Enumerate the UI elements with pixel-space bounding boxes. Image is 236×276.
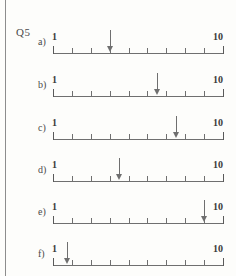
- number-line-start-label: 1: [52, 31, 57, 42]
- number-line-endpoint-tick: [223, 216, 224, 224]
- arrow-shaft: [176, 116, 177, 132]
- number-line-tick: [166, 91, 167, 97]
- number-line-start-label: 1: [52, 117, 57, 128]
- number-line-tick: [91, 218, 92, 224]
- number-line-tick: [147, 176, 148, 182]
- arrow-shaft: [67, 242, 68, 258]
- number-line-tick: [72, 134, 73, 140]
- row-letter-label: a): [38, 36, 46, 47]
- number-line-row: e)110: [0, 188, 236, 232]
- number-line-row: c)110: [0, 104, 236, 148]
- number-line-start-label: 1: [52, 159, 57, 170]
- number-line-tick: [72, 91, 73, 97]
- row-letter-label: c): [38, 122, 46, 133]
- number-line-arrow-marker: [172, 116, 181, 138]
- number-line-tick: [147, 260, 148, 266]
- row-letter-label: b): [38, 79, 46, 90]
- row-letter-label: d): [38, 164, 46, 175]
- number-line-arrow-marker: [200, 200, 209, 222]
- number-line-tick: [110, 260, 111, 266]
- number-line-end-label: 10: [213, 201, 223, 212]
- number-line-arrow-marker: [153, 73, 162, 95]
- arrow-head-icon: [154, 89, 160, 95]
- number-line-tick: [204, 260, 205, 266]
- number-line-tick: [204, 134, 205, 140]
- number-line-tick: [185, 260, 186, 266]
- number-line-tick: [166, 48, 167, 54]
- arrow-shaft: [204, 200, 205, 216]
- row-letter-label: e): [38, 206, 46, 217]
- number-line-endpoint-tick: [53, 174, 54, 182]
- number-line-axis: [53, 181, 223, 182]
- number-line-tick: [147, 48, 148, 54]
- number-line-tick: [185, 176, 186, 182]
- number-line-tick: [166, 218, 167, 224]
- number-line-tick: [91, 260, 92, 266]
- number-line-tick: [129, 218, 130, 224]
- number-line-endpoint-tick: [53, 46, 54, 54]
- number-line-tick: [110, 91, 111, 97]
- arrow-head-icon: [201, 216, 207, 222]
- number-line-tick: [147, 218, 148, 224]
- number-line-axis: [53, 223, 223, 224]
- number-line-tick: [185, 134, 186, 140]
- number-line-tick: [72, 176, 73, 182]
- number-line-endpoint-tick: [223, 174, 224, 182]
- number-line-row: f)110: [0, 230, 236, 274]
- number-line-tick: [129, 48, 130, 54]
- number-line-arrow-marker: [63, 242, 72, 264]
- arrow-shaft: [157, 73, 158, 89]
- number-line-row: a)110: [0, 18, 236, 62]
- number-line-tick: [129, 91, 130, 97]
- number-line-tick: [91, 91, 92, 97]
- number-line-endpoint-tick: [223, 258, 224, 266]
- number-line-axis: [53, 265, 223, 266]
- number-line-end-label: 10: [213, 243, 223, 254]
- number-line-tick: [91, 48, 92, 54]
- arrow-shaft: [119, 158, 120, 174]
- number-line-tick: [91, 176, 92, 182]
- number-line-endpoint-tick: [223, 89, 224, 97]
- number-line-tick: [110, 134, 111, 140]
- number-line-endpoint-tick: [53, 89, 54, 97]
- arrow-head-icon: [107, 46, 113, 52]
- number-line-endpoint-tick: [53, 216, 54, 224]
- number-line-tick: [110, 176, 111, 182]
- number-line-tick: [204, 48, 205, 54]
- number-line-tick: [110, 218, 111, 224]
- number-line-tick: [129, 134, 130, 140]
- number-line-arrow-marker: [115, 158, 124, 180]
- number-line-start-label: 1: [52, 201, 57, 212]
- arrow-head-icon: [64, 258, 70, 264]
- number-line-tick: [166, 176, 167, 182]
- number-line-tick: [185, 91, 186, 97]
- number-line-end-label: 10: [213, 31, 223, 42]
- number-line-axis: [53, 53, 223, 54]
- worksheet-page: Q5 a)110b)110c)110d)110e)110f)110: [0, 0, 236, 276]
- number-line-tick: [147, 134, 148, 140]
- number-line-tick: [204, 91, 205, 97]
- number-line-tick: [129, 260, 130, 266]
- number-line-start-label: 1: [52, 74, 57, 85]
- arrow-shaft: [110, 30, 111, 46]
- number-line-row: d)110: [0, 146, 236, 190]
- number-line-tick: [129, 176, 130, 182]
- number-line-axis: [53, 96, 223, 97]
- arrow-head-icon: [116, 174, 122, 180]
- number-line-tick: [204, 176, 205, 182]
- number-line-tick: [72, 48, 73, 54]
- number-line-tick: [166, 260, 167, 266]
- number-line-start-label: 1: [52, 243, 57, 254]
- number-line-tick: [91, 134, 92, 140]
- row-letter-label: f): [38, 248, 45, 259]
- number-line-tick: [185, 218, 186, 224]
- number-line-endpoint-tick: [53, 132, 54, 140]
- number-line-tick: [147, 91, 148, 97]
- number-line-end-label: 10: [213, 117, 223, 128]
- number-line-endpoint-tick: [223, 132, 224, 140]
- number-line-axis: [53, 139, 223, 140]
- number-line-end-label: 10: [213, 159, 223, 170]
- number-line-endpoint-tick: [53, 258, 54, 266]
- number-line-tick: [185, 48, 186, 54]
- number-line-row: b)110: [0, 61, 236, 105]
